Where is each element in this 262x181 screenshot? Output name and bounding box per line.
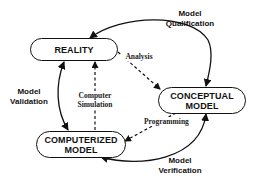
label-computer-simulation: Computer Simulation xyxy=(76,91,114,109)
node-computerized-label-1: COMPUTERIZED xyxy=(44,135,117,145)
node-conceptual-label-2: MODEL xyxy=(186,101,219,111)
node-reality: REALITY xyxy=(30,38,118,61)
node-reality-label: REALITY xyxy=(54,45,93,55)
label-model-validation: Model Validation xyxy=(6,87,52,106)
label-model-verification: Model Verification xyxy=(150,156,210,175)
model-cycle-diagram: REALITY CONCEPTUAL MODEL COMPUTERIZED MO… xyxy=(0,0,262,181)
validation-arc xyxy=(58,62,68,130)
node-computerized-model: COMPUTERIZED MODEL xyxy=(36,131,126,158)
node-conceptual-model: CONCEPTUAL MODEL xyxy=(158,87,246,114)
node-computerized-label-2: MODEL xyxy=(65,145,98,155)
node-conceptual-label-1: CONCEPTUAL xyxy=(170,91,234,101)
label-model-qualification: Model Qualification xyxy=(162,9,218,28)
label-programming: Programming xyxy=(144,117,186,126)
label-analysis: Analysis xyxy=(121,52,157,61)
